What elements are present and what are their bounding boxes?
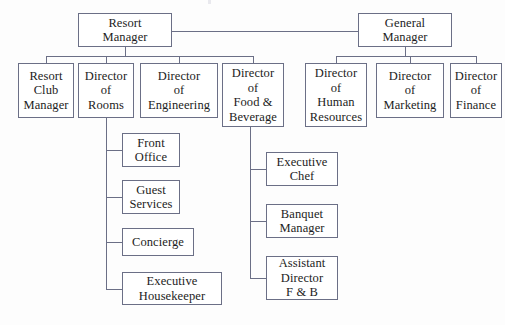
org-node-label-line: Resources: [310, 110, 362, 125]
connector-rooms-arm-2: [106, 197, 122, 198]
org-chart-canvas: ResortManagerGeneralManagerResortClubMan…: [0, 0, 505, 325]
org-node-resort-manager[interactable]: ResortManager: [78, 13, 172, 47]
org-node-front-office[interactable]: FrontOffice: [122, 133, 180, 167]
connector-left-bus-h: [46, 56, 253, 57]
org-node-label-line: Director: [281, 271, 323, 286]
org-node-label-line: Office: [135, 150, 167, 165]
org-node-label-line: General: [385, 16, 425, 31]
connector-left-drop-1: [46, 56, 47, 63]
org-node-executive-chef[interactable]: ExecutiveChef: [266, 152, 338, 186]
org-node-label-line: Front: [137, 136, 165, 151]
org-node-label-line: Food &: [233, 95, 272, 110]
connector-peer-link: [172, 31, 358, 32]
connector-left-trunk-v: [125, 47, 126, 56]
org-node-label-line: Housekeeper: [139, 289, 205, 304]
org-node-label-line: Human: [317, 95, 354, 110]
org-node-label-line: Banquet: [281, 207, 323, 222]
org-node-label-line: of: [331, 81, 342, 96]
org-node-label-line: Director: [85, 69, 127, 84]
org-node-label-line: Manager: [382, 30, 427, 45]
connector-fb-spine: [250, 127, 251, 278]
connector-right-drop-3: [476, 56, 477, 63]
org-node-label-line: of: [174, 83, 185, 98]
connector-rooms-arm-4: [106, 289, 122, 290]
org-node-director-of-rooms[interactable]: DirectorofRooms: [78, 63, 134, 118]
connector-fb-arm-1: [250, 169, 266, 170]
connector-rooms-arm-3: [106, 242, 122, 243]
scan-artifact: [208, 0, 211, 4]
connector-right-trunk-v: [405, 47, 406, 56]
org-node-label-line: Guest: [136, 183, 166, 198]
connector-left-drop-2: [106, 56, 107, 63]
org-node-label-line: Concierge: [132, 235, 184, 250]
org-node-label-line: Marketing: [384, 98, 437, 113]
org-node-label-line: Beverage: [229, 110, 277, 125]
connector-left-drop-4: [253, 56, 254, 63]
org-node-label-line: Resort: [29, 69, 62, 84]
connector-rooms-spine: [106, 118, 107, 290]
org-node-label-line: Engineering: [148, 98, 210, 113]
org-node-label-line: Manager: [279, 221, 324, 236]
org-node-executive-housekeeper[interactable]: ExecutiveHousekeeper: [122, 272, 222, 305]
org-node-general-manager[interactable]: GeneralManager: [358, 13, 452, 47]
org-node-label-line: Manager: [102, 30, 147, 45]
connector-fb-arm-2: [250, 221, 266, 222]
org-node-label-line: Director: [315, 66, 357, 81]
org-node-label-line: F & B: [286, 285, 318, 300]
org-node-label-line: Resort: [108, 16, 141, 31]
org-node-label-line: Director: [455, 69, 497, 84]
org-node-label-line: of: [471, 83, 482, 98]
org-node-concierge[interactable]: Concierge: [122, 228, 194, 256]
org-node-label-line: Assistant: [279, 256, 326, 271]
org-node-label-line: Director: [232, 66, 274, 81]
connector-right-bus-h: [336, 56, 476, 57]
connector-fb-arm-3: [250, 278, 266, 279]
org-node-label-line: of: [405, 83, 416, 98]
org-node-label-line: of: [101, 83, 112, 98]
org-node-label-line: Finance: [456, 98, 496, 113]
org-node-director-of-marketing[interactable]: DirectorofMarketing: [376, 63, 444, 118]
org-node-label-line: of: [248, 81, 259, 96]
org-node-banquet-manager[interactable]: BanquetManager: [266, 204, 338, 238]
org-node-director-of-engineering[interactable]: DirectorofEngineering: [140, 63, 218, 118]
connector-left-drop-3: [179, 56, 180, 63]
org-node-label-line: Rooms: [88, 98, 124, 113]
org-node-resort-club-manager[interactable]: ResortClubManager: [18, 63, 74, 118]
org-node-director-of-food-beverage[interactable]: DirectorofFood &Beverage: [222, 63, 284, 127]
org-node-director-of-human-resources[interactable]: DirectorofHumanResources: [305, 63, 367, 127]
org-node-director-of-finance[interactable]: DirectorofFinance: [450, 63, 502, 118]
org-node-label-line: Club: [34, 83, 59, 98]
org-node-label-line: Chef: [290, 169, 315, 184]
org-node-label-line: Manager: [23, 98, 68, 113]
connector-right-drop-1: [336, 56, 337, 63]
connector-right-drop-2: [410, 56, 411, 63]
connector-rooms-arm-1: [106, 150, 122, 151]
org-node-assistant-director-fb[interactable]: AssistantDirectorF & B: [266, 256, 338, 300]
org-node-guest-services[interactable]: GuestServices: [122, 180, 180, 214]
org-node-label-line: Executive: [147, 274, 198, 289]
org-node-label-line: Director: [389, 69, 431, 84]
org-node-label-line: Services: [129, 197, 172, 212]
org-node-label-line: Executive: [277, 155, 328, 170]
org-node-label-line: Director: [158, 69, 200, 84]
